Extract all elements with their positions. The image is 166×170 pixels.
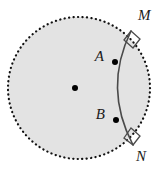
point-m-label: M [137, 7, 152, 23]
point-n-label: N [135, 148, 147, 164]
point-b-label: B [96, 106, 105, 122]
point-a-label: A [94, 48, 105, 64]
point-b-dot [113, 117, 119, 123]
center-point-dot [72, 85, 78, 91]
geometry-figure: A B M N [0, 0, 166, 170]
point-a-dot [112, 59, 118, 65]
figure-canvas: A B M N [0, 0, 166, 170]
